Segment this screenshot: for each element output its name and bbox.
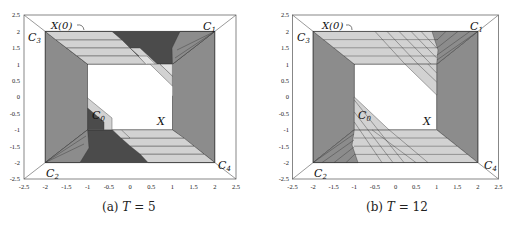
svg-text:-2.5: -2.5 (19, 183, 29, 190)
caption-a: (a) T = 5 (102, 200, 156, 214)
svg-text:-2: -2 (15, 159, 20, 166)
svg-text:-1.5: -1.5 (61, 183, 71, 190)
svg-text:2: 2 (476, 183, 479, 190)
caption-a-prefix: (a) (102, 200, 122, 214)
x-axis-ticks-a: -2.5 -2 -1.5 -1 -0.5 0 0.5 1 1.5 2 2.5 (19, 183, 240, 190)
svg-text:0: 0 (17, 93, 20, 100)
svg-text:-0.5: -0.5 (10, 110, 20, 117)
svg-text:0: 0 (128, 183, 131, 190)
svg-text:-2: -2 (284, 159, 289, 166)
svg-text:0.5: 0.5 (147, 183, 155, 190)
svg-text:0.5: 0.5 (281, 77, 289, 84)
label-x0-a: X(0) (50, 20, 72, 31)
svg-text:2: 2 (286, 28, 289, 35)
svg-text:2.5: 2.5 (232, 183, 240, 190)
svg-text:-2: -2 (310, 183, 315, 190)
svg-text:0.5: 0.5 (12, 77, 20, 84)
caption-b-var: T (387, 200, 395, 214)
svg-text:-2: -2 (42, 183, 47, 190)
caption-b-value: = 12 (395, 200, 428, 214)
svg-text:1.5: 1.5 (281, 44, 289, 51)
label-x-a: X (156, 115, 166, 128)
svg-text:2.5: 2.5 (281, 11, 289, 18)
caption-b: (b) T = 12 (366, 200, 428, 214)
svg-text:1.5: 1.5 (190, 183, 198, 190)
svg-text:0: 0 (286, 93, 289, 100)
svg-text:-0.5: -0.5 (104, 183, 114, 190)
svg-text:-1.5: -1.5 (329, 183, 339, 190)
y-axis-ticks-a: 2.5 2 1.5 1 0.5 0 -0.5 -1 -1.5 -2 -2.5 (10, 11, 20, 182)
svg-text:1: 1 (286, 61, 289, 68)
label-x0-b: X(0) (321, 20, 343, 31)
svg-text:-0.5: -0.5 (370, 183, 380, 190)
svg-text:1: 1 (171, 183, 174, 190)
svg-text:1: 1 (435, 183, 438, 190)
svg-text:-2.5: -2.5 (10, 175, 20, 182)
svg-text:2.5: 2.5 (12, 11, 20, 18)
panel-b-plot: 2.5 2 1.5 1 0.5 0 -0.5 -1 -1.5 -2 -2.5 -… (279, 11, 503, 190)
svg-text:1.5: 1.5 (453, 183, 461, 190)
caption-a-value: = 5 (130, 200, 155, 214)
svg-text:1.5: 1.5 (12, 44, 20, 51)
svg-text:-1.5: -1.5 (10, 143, 20, 150)
svg-text:2: 2 (213, 183, 216, 190)
panel-a-plot: 2.5 2 1.5 1 0.5 0 -0.5 -1 -1.5 -2 -2.5 -… (10, 11, 240, 190)
svg-text:0: 0 (394, 183, 397, 190)
svg-text:0.5: 0.5 (412, 183, 420, 190)
svg-text:1: 1 (17, 61, 20, 68)
svg-text:-1: -1 (15, 126, 20, 133)
label-x-b: X (422, 115, 432, 128)
svg-text:2: 2 (17, 28, 20, 35)
svg-text:-1: -1 (352, 183, 357, 190)
svg-text:2.5: 2.5 (494, 183, 502, 190)
caption-b-prefix: (b) (366, 200, 387, 214)
svg-text:-1: -1 (284, 126, 289, 133)
x-axis-ticks-b: -2.5 -2 -1.5 -1 -0.5 0 0.5 1 1.5 2 2.5 (287, 183, 502, 190)
svg-text:-1: -1 (85, 183, 90, 190)
svg-text:-0.5: -0.5 (279, 110, 289, 117)
svg-text:-1.5: -1.5 (279, 143, 289, 150)
svg-text:-2.5: -2.5 (279, 175, 289, 182)
y-axis-ticks-b: 2.5 2 1.5 1 0.5 0 -0.5 -1 -1.5 -2 -2.5 (279, 11, 289, 182)
svg-text:-2.5: -2.5 (287, 183, 297, 190)
figure: 2.5 2 1.5 1 0.5 0 -0.5 -1 -1.5 -2 -2.5 -… (0, 0, 520, 226)
